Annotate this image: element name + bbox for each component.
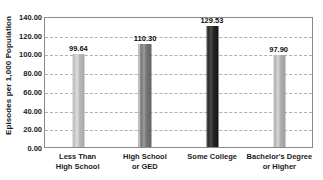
y-axis-tick-label: 20.00: [14, 125, 42, 134]
bar-slot: 129.53: [179, 18, 246, 147]
bar[interactable]: [72, 54, 85, 147]
bar[interactable]: [205, 26, 218, 147]
bar-slot: 110.30: [112, 18, 179, 147]
bar-slot: 99.64: [45, 18, 112, 147]
bar-chart: Episodes per 1,000 Population 140.00120.…: [0, 0, 323, 180]
bars-layer: 99.64110.30129.5397.90: [45, 18, 312, 147]
y-axis-title-label: Episodes per 1,000 Population: [4, 16, 13, 135]
x-axis-category-label: Bachelor's Degreeor Higher: [246, 152, 313, 172]
y-axis-tick-label: 60.00: [14, 87, 42, 96]
bar-value-label: 97.90: [269, 45, 288, 54]
x-axis-category-label: Some College: [179, 152, 246, 172]
bar[interactable]: [139, 44, 152, 147]
y-axis-tick-label: 140.00: [14, 13, 42, 22]
x-axis-category-label: High Schoolor GED: [111, 152, 178, 172]
bar[interactable]: [272, 55, 285, 147]
bar-slot: 97.90: [245, 18, 312, 147]
bar-value-label: 110.30: [134, 34, 157, 43]
x-axis-category-line1: Bachelor's Degree: [247, 152, 313, 161]
y-axis-tick-label: 100.00: [14, 50, 42, 59]
y-axis-tick-label: 0.00: [14, 144, 42, 153]
y-axis-tick-label: 40.00: [14, 106, 42, 115]
x-axis-category-line2: or Higher: [246, 162, 313, 172]
x-axis-category-line1: Some College: [187, 152, 237, 161]
y-axis-tick-labels: 140.00120.00100.0080.0060.0040.0020.000.…: [14, 17, 42, 148]
x-axis-category-label: Less ThanHigh School: [44, 152, 111, 172]
y-axis-tick-label: 120.00: [14, 31, 42, 40]
x-axis-category-line1: Less Than: [59, 152, 96, 161]
bar-value-label: 129.53: [200, 16, 223, 25]
x-axis-category-line2: High School: [44, 162, 111, 172]
y-axis-tick-label: 80.00: [14, 69, 42, 78]
plot-area: 99.64110.30129.5397.90: [44, 17, 313, 148]
x-axis-category-labels: Less ThanHigh SchoolHigh Schoolor GEDSom…: [44, 152, 313, 172]
x-axis-category-line2: or GED: [111, 162, 178, 172]
bar-value-label: 99.64: [69, 44, 88, 53]
x-axis-category-line1: High School: [123, 152, 167, 161]
